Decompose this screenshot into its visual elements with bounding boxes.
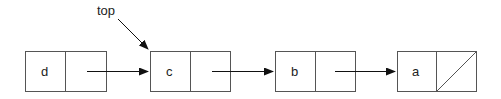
null-pointer-slash [437, 52, 477, 92]
node-value: b [291, 64, 298, 79]
top-pointer-arrow [118, 19, 148, 49]
top-pointer-label: top [97, 3, 115, 18]
node-value: c [166, 64, 173, 79]
node-a: a [398, 52, 477, 92]
node-value: a [412, 64, 420, 79]
node-value: d [41, 64, 48, 79]
linked-list-diagram: top d c b a [0, 0, 501, 99]
